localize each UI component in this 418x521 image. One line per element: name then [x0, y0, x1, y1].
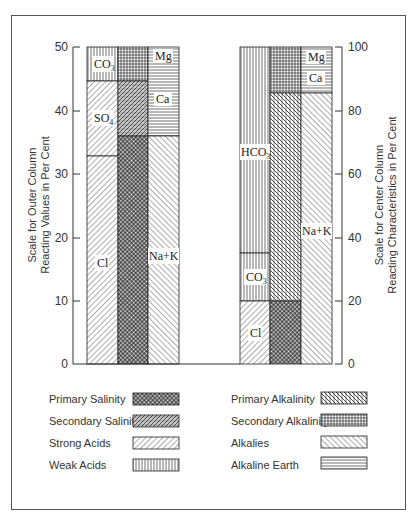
label-na-k: Na+K — [302, 224, 332, 238]
label-ca: Ca — [309, 71, 323, 85]
legend-item-alkaline-earth: Alkaline Earth — [231, 457, 367, 471]
tick-label: 30 — [55, 167, 69, 181]
svg-text:Weak Acids: Weak Acids — [49, 459, 107, 471]
label-cl: Cl — [250, 326, 262, 340]
svg-text:Primary Alkalinity: Primary Alkalinity — [231, 393, 315, 405]
legend-item-primary-salinity: Primary Salinity — [49, 393, 179, 405]
legend-swatch — [133, 393, 179, 405]
right-axis-title: Scale for Center Column Reacting Charact… — [373, 116, 398, 293]
tick-label: 10 — [55, 294, 69, 308]
label-ca: Ca — [156, 92, 170, 106]
label-mg: Mg — [155, 49, 172, 63]
legend-item-primary-alkalinity: Primary Alkalinity — [231, 392, 367, 405]
tick-label: 60 — [348, 167, 362, 181]
label-na-k: Na+K — [149, 249, 179, 263]
tick-label: 20 — [348, 294, 362, 308]
legend-swatch — [321, 392, 367, 404]
right-y-ticks: 0 20 40 60 80 100 — [335, 40, 368, 371]
left-panel: 0 10 20 30 40 50 Scale for Outer Column … — [26, 40, 179, 371]
segment-secondary-alkalinity — [118, 47, 148, 81]
tick-label: 50 — [55, 40, 69, 54]
right-panel: HCO3 CO3 Cl Mg Ca Na+K 0 20 40 60 80 — [240, 40, 398, 371]
legend-item-weak-acids: Weak Acids — [49, 459, 179, 471]
legend-swatch — [133, 459, 179, 471]
svg-text:Scale for Outer Column: Scale for Outer Column — [26, 148, 38, 263]
label-hco3: HCO3 — [241, 145, 270, 161]
tick-label: 0 — [348, 357, 355, 371]
tick-label: 100 — [348, 40, 368, 54]
left-axis-title: Scale for Outer Column Reacting Values i… — [26, 136, 51, 273]
svg-text:Primary Salinity: Primary Salinity — [49, 393, 126, 405]
legend-left: Primary Salinity Secondary Salinity Stro… — [49, 393, 179, 471]
legend-right: Primary Alkalinity Secondary Alkalinity … — [231, 392, 367, 471]
right-column-cations — [301, 47, 332, 364]
legend-item-secondary-salinity: Secondary Salinity — [49, 415, 179, 427]
legend-swatch — [321, 436, 367, 448]
label-cl: Cl — [97, 256, 109, 270]
legend-swatch — [133, 415, 179, 427]
label-mg: Mg — [308, 50, 325, 64]
tick-label: 40 — [55, 104, 69, 118]
svg-text:Reacting Values in Per Cent: Reacting Values in Per Cent — [39, 136, 51, 273]
right-column-characteristics — [270, 47, 301, 364]
chart-canvas: 0 10 20 30 40 50 Scale for Outer Column … — [0, 0, 418, 521]
tick-label: 40 — [348, 231, 362, 245]
svg-text:Scale for Center Column: Scale for Center Column — [373, 145, 385, 265]
segment-primary-alkalinity — [270, 93, 301, 301]
legend-swatch — [321, 414, 367, 426]
legend-item-strong-acids: Strong Acids — [49, 437, 179, 449]
left-y-ticks: 0 10 20 30 40 50 — [55, 40, 80, 371]
segment-secondary-salinity — [118, 81, 148, 136]
left-column-characteristics — [118, 47, 148, 364]
svg-text:Secondary Alkalinity: Secondary Alkalinity — [231, 415, 330, 427]
left-column-anions — [87, 47, 118, 364]
svg-text:Alkaline Earth: Alkaline Earth — [231, 459, 299, 471]
segment-primary-salinity — [118, 136, 148, 364]
tick-label: 20 — [55, 231, 69, 245]
tick-label: 80 — [348, 104, 362, 118]
segment-primary-salinity — [270, 301, 301, 364]
legend-item-alkalies: Alkalies — [231, 436, 367, 449]
right-column-anions — [240, 47, 270, 364]
svg-text:Strong Acids: Strong Acids — [49, 437, 111, 449]
legend-swatch — [321, 457, 367, 469]
svg-text:Reacting Characteristics in Pe: Reacting Characteristics in Per Cent — [386, 116, 398, 293]
legend-swatch — [133, 437, 179, 449]
tick-label: 0 — [61, 357, 68, 371]
segment-secondary-alkalinity — [270, 47, 301, 93]
svg-text:Secondary Salinity: Secondary Salinity — [49, 415, 141, 427]
svg-text:Alkalies: Alkalies — [231, 437, 269, 449]
legend-item-secondary-alkalinity: Secondary Alkalinity — [231, 414, 367, 427]
